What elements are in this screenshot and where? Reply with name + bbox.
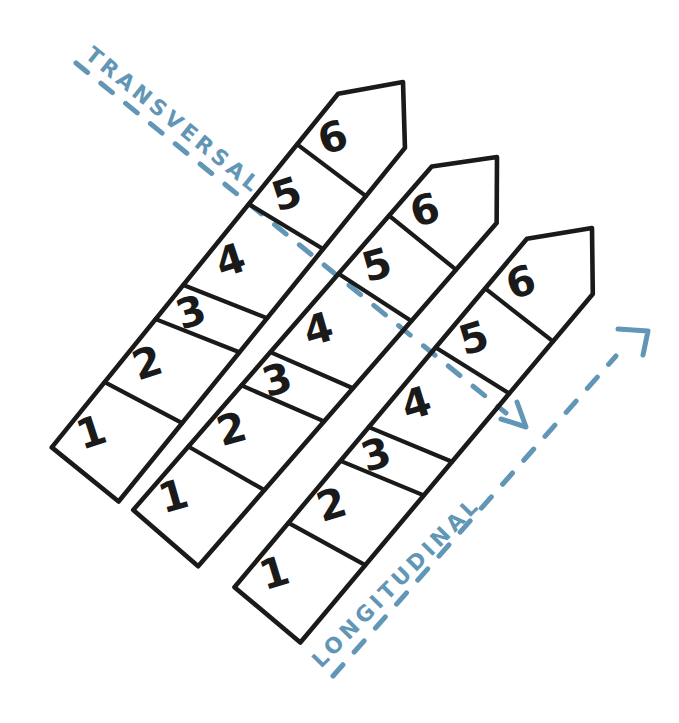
strip-3-segment-4-label: 4 xyxy=(396,376,437,430)
transversal-label: TRANSVERSAL xyxy=(81,41,267,198)
strip-2-segment-1-label: 1 xyxy=(153,469,194,523)
strip-2-segment-6-label: 6 xyxy=(404,183,445,237)
longitudinal-arrowhead-icon xyxy=(618,329,648,355)
strip-2-segment-4-label: 4 xyxy=(298,302,339,356)
strip-3-segment-2-label: 2 xyxy=(311,478,352,532)
strip-1-segment-2-label: 2 xyxy=(126,336,168,390)
strip-1-segment-5-label: 5 xyxy=(266,167,308,221)
sections-orientation-diagram: TRANSVERSAL LONGITUDINAL 6 5 4 3 2 1 6 5… xyxy=(0,0,679,723)
strip-3: 6 5 4 3 2 1 xyxy=(229,196,625,642)
strip-1-segment-6-label: 6 xyxy=(312,110,354,164)
strip-2-segment-2-label: 2 xyxy=(211,402,252,456)
strip-3-segment-6-label: 6 xyxy=(500,255,541,309)
strip-1-segment-1-label: 1 xyxy=(70,405,112,459)
strip-3-segment-5-label: 5 xyxy=(453,311,494,365)
strip-3-segment-1-label: 1 xyxy=(254,546,295,600)
strip-2-segment-5-label: 5 xyxy=(357,238,398,292)
strip-1-segment-4-label: 4 xyxy=(209,233,251,287)
